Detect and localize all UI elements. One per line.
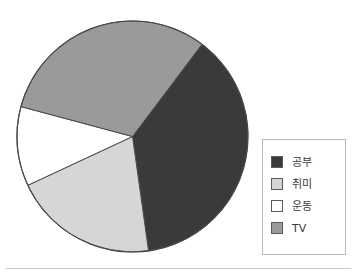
figure-root: 공부 취미 운동 TV xyxy=(0,0,357,277)
legend-label-exercise: 운동 xyxy=(292,200,312,213)
chart-legend: 공부 취미 운동 TV xyxy=(262,139,346,255)
legend-item-exercise[interactable]: 운동 xyxy=(271,198,312,214)
legend-swatch-study xyxy=(271,156,283,168)
legend-label-hobby: 취미 xyxy=(292,178,312,191)
pie-slices xyxy=(17,21,248,252)
legend-swatch-tv xyxy=(271,222,283,234)
legend-item-tv[interactable]: TV xyxy=(271,220,306,236)
legend-item-study[interactable]: 공부 xyxy=(271,154,312,170)
top-divider xyxy=(6,2,351,3)
legend-label-study: 공부 xyxy=(292,156,312,169)
pie-chart-svg xyxy=(16,20,249,253)
pie-chart xyxy=(16,20,249,253)
legend-swatch-exercise xyxy=(271,200,283,212)
legend-label-tv: TV xyxy=(292,222,306,235)
legend-swatch-hobby xyxy=(271,178,283,190)
bottom-divider xyxy=(6,268,351,269)
legend-item-hobby[interactable]: 취미 xyxy=(271,176,312,192)
